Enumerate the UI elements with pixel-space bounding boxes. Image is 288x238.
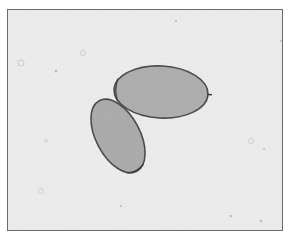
micrograph-frame [7,9,283,231]
micrograph-image [8,10,283,231]
background-texture [8,10,283,231]
